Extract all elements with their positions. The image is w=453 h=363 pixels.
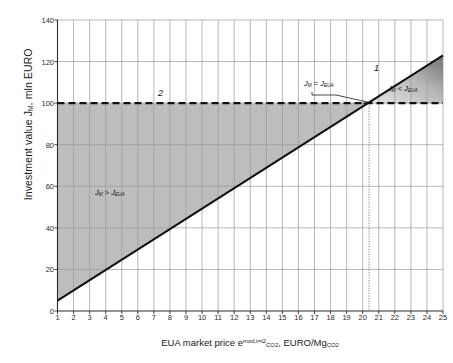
annotation-leader-line xyxy=(312,92,368,102)
annotation-greater: JM > JEUA xyxy=(95,188,125,197)
plot-area xyxy=(0,0,453,363)
annotation-less: JM < JEUA xyxy=(388,84,418,93)
series-2-label: 2 xyxy=(158,88,163,98)
chart-figure: Investment value JM, mln EURO 0204060801… xyxy=(0,0,453,363)
annotation-equality: JM = JEUA xyxy=(304,79,334,88)
series-1-label: 1 xyxy=(374,63,379,73)
